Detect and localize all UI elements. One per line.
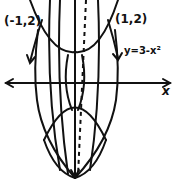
inner-curve-3 <box>90 0 99 170</box>
rotation-axis-dashed <box>78 0 86 176</box>
diagram-canvas: (-1,2) (1,2) y=3-x² x <box>0 0 177 181</box>
point-label-right: (1,2) <box>115 12 147 26</box>
point-label-left: (-1,2) <box>4 14 41 28</box>
x-axis-label: x <box>162 84 170 98</box>
curve-label: y=3-x² <box>124 45 161 56</box>
